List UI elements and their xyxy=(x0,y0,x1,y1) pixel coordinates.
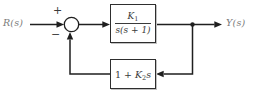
feedback-gain-symbol: K xyxy=(135,69,142,80)
arrowhead-output-icon xyxy=(214,21,222,27)
arrowhead-into-feedback-block-icon xyxy=(156,71,164,77)
output-signal-label: Y(s) xyxy=(226,18,245,28)
transfer-denominator: s(s + 1) xyxy=(115,24,150,36)
summing-plus-sign: + xyxy=(53,5,62,16)
feedback-coefficient: 1 + xyxy=(115,69,135,80)
summing-minus-sign: − xyxy=(51,29,60,40)
feedback-transfer-block: 1 + K2s xyxy=(110,59,156,89)
arrowhead-into-summing-icon xyxy=(57,21,65,27)
summing-junction-circle xyxy=(64,17,78,31)
forward-transfer-block: K1 s(s + 1) xyxy=(110,4,156,43)
block-diagram: R(s) + − K1 s(s + 1) 1 + K2s Y(s) xyxy=(0,0,254,101)
feedback-transfer-function: 1 + K2s xyxy=(115,69,151,80)
transfer-numerator: K1 xyxy=(115,11,150,24)
input-signal-label: R(s) xyxy=(3,18,23,28)
arrowhead-into-forward-block-icon xyxy=(102,21,110,27)
feedback-drop-line xyxy=(164,25,193,75)
takeoff-point-dot xyxy=(190,22,194,26)
feedback-variable: s xyxy=(146,69,151,80)
forward-transfer-function: K1 s(s + 1) xyxy=(115,11,150,36)
arrowhead-into-summing-bottom-icon xyxy=(67,32,73,40)
feedback-return-line xyxy=(70,40,110,75)
gain-subscript: 1 xyxy=(134,15,138,23)
feedback-gain-subscript: 2 xyxy=(142,74,146,82)
